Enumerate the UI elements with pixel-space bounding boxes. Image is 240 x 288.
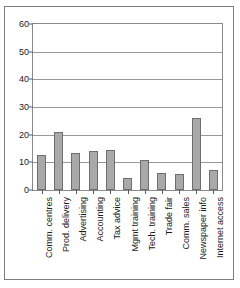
x-tick-mark (76, 190, 77, 194)
x-axis-label: Internet access (216, 197, 225, 258)
bar-chart: 0102030405060 Comm. centresProd. deliver… (5, 7, 233, 279)
x-tick-mark (162, 190, 163, 194)
bar (140, 160, 149, 190)
bar (106, 150, 115, 190)
x-tick-mark (145, 190, 146, 194)
x-axis-label: Tech. training (148, 197, 157, 251)
bar-series (33, 24, 222, 190)
y-tick-label-10: 10 (19, 158, 29, 167)
x-axis-label: Comm. sales (182, 197, 191, 250)
x-tick-mark (59, 190, 60, 194)
x-axis-labels: Comm. centresProd. deliveryAdvertisingAc… (32, 197, 223, 279)
x-tick-mark (213, 190, 214, 194)
y-tick-label-20: 20 (19, 130, 29, 139)
x-tick-mark (110, 190, 111, 194)
x-tick-mark (196, 190, 197, 194)
bar (209, 170, 218, 190)
bar (123, 178, 132, 190)
bar (71, 153, 80, 190)
x-axis-label: Tax advice (113, 197, 122, 240)
x-tick-mark (93, 190, 94, 194)
x-axis-label: Advertising (79, 197, 88, 242)
bar (54, 132, 63, 190)
bar (37, 155, 46, 190)
x-axis-label: Prod. delivery (62, 197, 71, 252)
x-axis-label: Mgmt training (131, 197, 140, 252)
bar (192, 118, 201, 190)
bar (157, 173, 166, 190)
bar (89, 151, 98, 190)
x-axis-label: Newspaper info (199, 197, 208, 260)
y-tick-label-30: 30 (19, 103, 29, 112)
x-tick-mark (42, 190, 43, 194)
y-tick-label-50: 50 (19, 47, 29, 56)
y-tick-label-0: 0 (24, 186, 29, 195)
figure-frame: 0102030405060 Comm. centresProd. deliver… (4, 6, 234, 280)
x-axis-label: Accounting (96, 197, 105, 242)
x-tick-mark (179, 190, 180, 194)
bar (175, 174, 184, 190)
x-tick-mark (128, 190, 129, 194)
x-axis-label: Comm. centres (45, 197, 54, 258)
plot-area: 0102030405060 (32, 23, 223, 191)
y-tick-label-60: 60 (19, 20, 29, 29)
x-axis-label: Trade fair (165, 197, 174, 235)
y-tick-label-40: 40 (19, 75, 29, 84)
